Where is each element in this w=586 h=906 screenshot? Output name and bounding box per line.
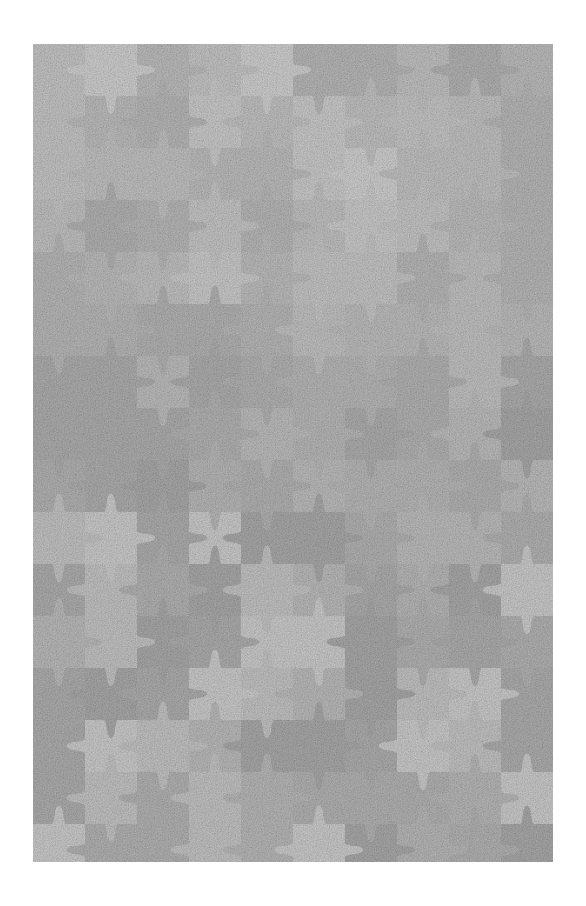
puzzle-piece-grid: [33, 44, 553, 862]
puzzle-surface: [33, 44, 553, 862]
puzzle-piece-layer: [33, 44, 553, 862]
artwork-canvas: [0, 0, 586, 906]
